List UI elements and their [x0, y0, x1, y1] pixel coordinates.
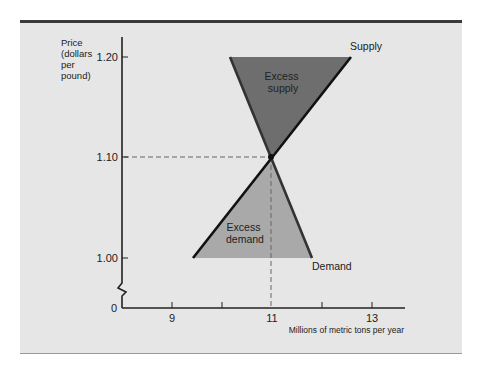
y-tick-1-20: 1.20	[97, 51, 118, 63]
y-tick-1-00: 1.00	[97, 252, 118, 264]
x-tick-9: 9	[169, 312, 175, 324]
y-axis-title: Price (dollars per pound)	[61, 37, 95, 81]
x-tick-11: 11	[266, 312, 277, 324]
excess-demand-label: Excess demand	[226, 221, 264, 245]
supply-label: Supply	[350, 40, 383, 52]
supply-demand-chart: Price (dollars per pound) 1.20 1.10 1.00…	[0, 0, 480, 371]
y-axis	[118, 37, 126, 308]
x-tick-13: 13	[366, 312, 378, 324]
y-tick-0: 0	[111, 302, 117, 314]
y-tick-1-10: 1.10	[97, 151, 118, 163]
demand-label: Demand	[312, 260, 352, 272]
equilibrium-point	[268, 154, 274, 160]
excess-supply-label: Excess supply	[265, 70, 302, 94]
x-axis-title: Millions of metric tons per year	[289, 325, 404, 335]
